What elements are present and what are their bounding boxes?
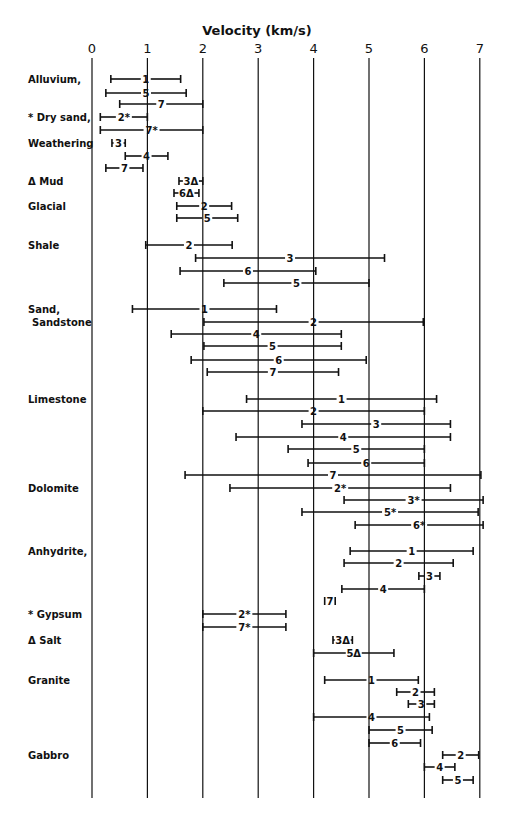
bar-source-label: 2 — [457, 750, 464, 761]
rock-label: Anhydrite, — [28, 546, 87, 557]
bar-source-label: 6 — [275, 355, 282, 366]
x-axis-title: Velocity (km/s) — [202, 23, 312, 38]
range-bar: 4 — [171, 329, 341, 340]
bar-source-label: 2 — [185, 240, 192, 251]
x-tick-label: 6 — [420, 41, 428, 56]
bar-source-label: 3 — [418, 699, 425, 710]
range-bar: 6 — [191, 355, 366, 366]
range-bar: 2 — [443, 750, 479, 761]
range-bar: 3Δ — [179, 176, 203, 187]
range-bar: 4 — [125, 151, 168, 162]
x-tick-label: 5 — [365, 41, 373, 56]
bar-source-label: 6 — [363, 458, 370, 469]
bar-source-label: 6 — [244, 266, 251, 277]
range-bar: 3 — [408, 699, 434, 710]
range-bar: 5* — [302, 507, 478, 518]
bar-source-label: 7 — [330, 470, 337, 481]
range-bar: 2 — [177, 201, 232, 212]
range-bar: 3 — [302, 419, 450, 430]
velocity-bars: 1572*7*3473Δ6Δ25236512456712345672*3*5*6… — [100, 74, 483, 786]
rock-label: Dolomite — [28, 483, 79, 494]
range-bar: 4 — [236, 432, 450, 443]
bar-source-label: 4 — [253, 329, 260, 340]
bar-source-label: 4 — [340, 432, 347, 443]
range-bar: 3 — [112, 138, 125, 149]
bar-source-label: 5 — [353, 444, 360, 455]
x-tick-label: 1 — [143, 41, 151, 56]
bar-source-label: 2 — [412, 687, 419, 698]
rock-label: Glacial — [28, 201, 66, 212]
bar-source-label: 1 — [408, 546, 415, 557]
range-bar: 7 — [120, 99, 203, 110]
rock-label: Δ Salt — [28, 635, 62, 646]
bar-source-label: 6* — [413, 520, 426, 531]
rock-label: Limestone — [28, 394, 87, 405]
range-bar: 4 — [314, 712, 430, 723]
bar-source-label: 2* — [238, 609, 251, 620]
bar-source-label: 5 — [397, 725, 404, 736]
range-bar: 7* — [100, 125, 202, 136]
range-bar: 2* — [230, 483, 450, 494]
bar-source-label: 1 — [338, 394, 345, 405]
range-bar: 5 — [224, 278, 369, 289]
bar-source-label: 5 — [204, 213, 211, 224]
bar-source-label: 3* — [408, 495, 421, 506]
rock-label: Δ Mud — [28, 176, 63, 187]
range-bar: 1 — [132, 304, 276, 315]
range-bar: 5 — [177, 213, 238, 224]
range-bar: 1 — [247, 394, 437, 405]
rock-label: Sand, — [28, 304, 60, 315]
rock-label: * Dry sand, — [28, 112, 91, 123]
range-bar: 1 — [111, 74, 181, 85]
range-bar: 3 — [196, 253, 385, 264]
range-bar: 2 — [146, 240, 232, 251]
rock-label: * Gypsum — [28, 609, 82, 620]
bar-source-label: 7 — [121, 163, 128, 174]
range-bar: 7 — [106, 163, 143, 174]
range-bar: 2 — [397, 687, 435, 698]
x-tick-label: 0 — [88, 41, 96, 56]
rock-label: Shale — [28, 240, 59, 251]
range-bar: 2 — [344, 558, 453, 569]
bar-source-label: 2* — [334, 483, 347, 494]
bar-source-label: 3 — [115, 138, 122, 149]
range-bar: 5Δ — [314, 648, 394, 659]
bar-source-label: 3Δ — [184, 176, 199, 187]
range-bar: 4 — [424, 762, 454, 773]
range-bar: 7 — [325, 596, 336, 607]
range-bar: 6 — [308, 458, 424, 469]
range-bar: 2 — [204, 317, 423, 328]
range-bar: 7 — [207, 367, 338, 378]
rock-label: Sandstone — [32, 317, 92, 328]
bar-source-label: 6 — [391, 738, 398, 749]
bar-source-label: 2 — [201, 201, 208, 212]
bar-source-label: 4 — [436, 762, 443, 773]
x-tick-label: 3 — [254, 41, 262, 56]
bar-source-label: 3 — [287, 253, 294, 264]
bar-source-label: 2 — [310, 406, 317, 417]
bar-source-label: 2 — [310, 317, 317, 328]
range-bar: 2* — [100, 112, 147, 123]
bar-source-label: 3 — [373, 419, 380, 430]
range-bar: 4 — [342, 584, 425, 595]
rock-type-labels: Alluvium,* Dry sand,WeatheringΔ MudGlaci… — [28, 74, 94, 761]
bar-source-label: 5 — [454, 775, 461, 786]
bar-source-label: 7* — [238, 622, 251, 633]
x-tick-label: 4 — [309, 41, 317, 56]
bar-source-label: 7 — [326, 596, 333, 607]
bar-source-label: 1 — [142, 74, 149, 85]
x-tick-label: 2 — [199, 41, 207, 56]
range-bar: 6 — [180, 266, 316, 277]
x-axis-ticks: 01234567 — [88, 41, 484, 56]
range-bar: 3Δ — [333, 635, 352, 646]
rock-label: Alluvium, — [28, 74, 81, 85]
bar-source-label: 7 — [269, 367, 276, 378]
range-bar: 5 — [369, 725, 432, 736]
range-bar: 7* — [203, 622, 286, 633]
bar-source-label: 5 — [143, 88, 150, 99]
bar-source-label: 6Δ — [179, 188, 194, 199]
bar-source-label: 7* — [145, 125, 158, 136]
bar-source-label: 1 — [201, 304, 208, 315]
bar-source-label: 5 — [269, 341, 276, 352]
bar-source-label: 2 — [395, 558, 402, 569]
